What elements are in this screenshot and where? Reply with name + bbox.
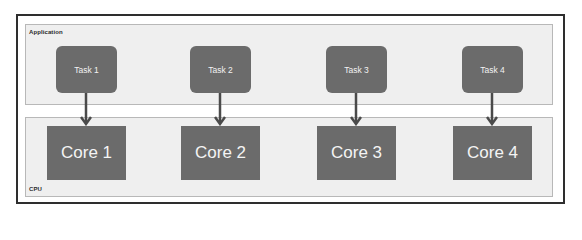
- core-node-3: Core 3: [317, 126, 396, 180]
- task-node-1: Task 1: [56, 46, 117, 93]
- task-node-2: Task 2: [190, 46, 251, 93]
- cpu-layer-label: CPU: [29, 186, 42, 192]
- arrow-down-icon: [350, 93, 362, 126]
- core-node-2: Core 2: [181, 126, 260, 180]
- core-node-1: Core 1: [47, 126, 126, 180]
- arrow-down-icon: [214, 93, 226, 126]
- task-node-4: Task 4: [462, 46, 523, 93]
- application-layer-label: Application: [29, 29, 63, 35]
- arrow-down-icon: [80, 93, 92, 126]
- arrow-down-icon: [486, 93, 498, 126]
- task-node-3: Task 3: [326, 46, 387, 93]
- core-node-4: Core 4: [453, 126, 532, 180]
